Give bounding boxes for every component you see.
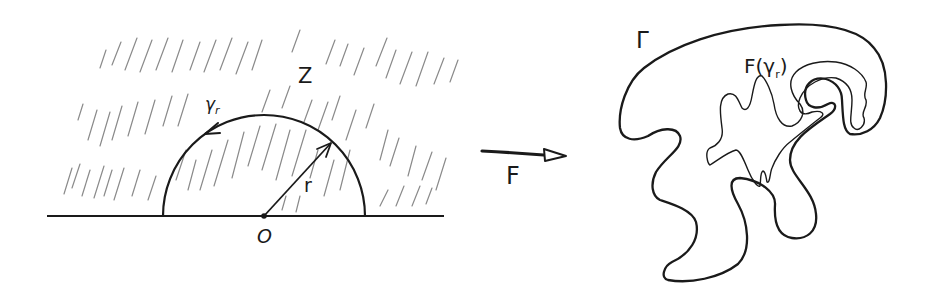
image-curve-label-main: F(γ [744,54,775,78]
semicircle-gamma-r [163,115,365,216]
image-curve-label: F(γr) [744,56,788,80]
mapping-label-f: F [506,164,520,188]
origin-label-o: O [257,227,272,246]
region-label-z: Z [298,66,312,87]
boundary-label-gamma: Γ [636,29,649,52]
mapping-arrowhead-icon [544,149,566,161]
arc-label-gamma-r: γr [205,96,220,116]
diagram-canvas [0,0,932,295]
radius-label-r: r [304,176,312,195]
hatching-region-z [64,30,458,212]
arc-direction-arrow-icon [205,123,220,134]
image-curve-label-close: ) [780,54,788,78]
arc-label-subscript: r [215,104,220,117]
arc-label-gamma: γ [205,94,215,114]
image-curve-f-gamma-r [707,61,867,186]
